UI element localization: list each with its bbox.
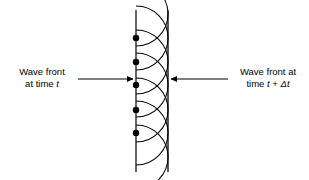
left-label-time-symbol: t	[56, 78, 59, 89]
source-point	[133, 59, 139, 65]
wavelet-arc-partial-top	[136, 0, 168, 46]
left-label-line1: Wave front	[8, 66, 76, 78]
wavelet-arc-3	[136, 53, 168, 117]
source-point	[133, 82, 139, 88]
source-point	[133, 107, 139, 113]
right-wave-front-label: Wave front at time t + Δt	[232, 66, 304, 90]
right-label-line1: Wave front at	[232, 66, 304, 78]
right-label-line2: time t + Δt	[232, 78, 304, 90]
wavelet-group	[136, 0, 168, 180]
left-wave-front-label: Wave front at time t	[8, 66, 76, 90]
right-label-plus: +	[270, 78, 281, 89]
left-label-prefix: at time	[25, 78, 56, 89]
wavelet-arc-2	[136, 30, 168, 94]
right-label-delta-t-symbol: Δt	[281, 78, 290, 89]
huygens-wavefront-diagram	[0, 0, 309, 180]
wavelet-arc-4	[136, 78, 168, 142]
figure-canvas: Wave front at time t Wave front at time …	[0, 0, 309, 180]
right-label-prefix: time	[246, 78, 267, 89]
wavelet-arc-partial-bottom	[136, 125, 168, 180]
wavelet-arc-1	[136, 6, 168, 70]
source-point	[133, 130, 139, 136]
source-point	[133, 35, 139, 41]
wavelet-arc-5	[136, 101, 168, 165]
left-label-line2: at time t	[8, 78, 76, 90]
